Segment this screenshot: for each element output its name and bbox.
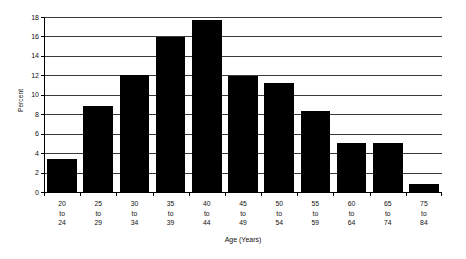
x-axis-tick-label-line: 75 (406, 199, 442, 209)
y-axis-tick-label: 4 (0, 150, 39, 157)
y-axis-tick-mark (41, 134, 45, 135)
bar[interactable] (192, 20, 222, 192)
bar[interactable] (156, 37, 186, 192)
x-axis-tick-label: 45to49 (225, 199, 261, 228)
bar[interactable] (264, 83, 294, 192)
bar-slot (370, 17, 406, 192)
y-axis-tick-label: 2 (0, 169, 39, 176)
x-axis-tick-label-line: 55 (297, 199, 333, 209)
x-axis-tick-label-line: 64 (333, 218, 369, 228)
x-axis-tick-marks (44, 192, 442, 197)
x-axis-tick-label-line: to (261, 209, 297, 219)
bar-chart-figure: Percent 024681012141618 20to2425to2930to… (0, 0, 466, 259)
x-axis-tick-label-line: to (116, 209, 152, 219)
bar[interactable] (373, 143, 403, 192)
bar-slot (44, 17, 80, 192)
x-axis-tick-label-line: to (189, 209, 225, 219)
y-axis-tick-label: 10 (0, 91, 39, 98)
x-axis-tick-mark (225, 192, 226, 196)
y-axis-tick-mark (41, 153, 45, 154)
y-axis-tick-label: 14 (0, 52, 39, 59)
y-axis-tick-mark (41, 75, 45, 76)
x-axis-tick-mark (441, 192, 442, 196)
x-axis-tick-label-line: 35 (153, 199, 189, 209)
bar[interactable] (228, 76, 258, 192)
x-axis-tick-label: 60to64 (333, 199, 369, 228)
x-axis-tick-mark (189, 192, 190, 196)
x-axis-tick-mark (370, 192, 371, 196)
x-axis-tick-label: 40to44 (189, 199, 225, 228)
x-axis-tick-label: 75to84 (406, 199, 442, 228)
y-axis-tick-mark (41, 95, 45, 96)
x-axis-tick-label: 35to39 (153, 199, 189, 228)
x-axis-tick-label-line: 24 (44, 218, 80, 228)
x-axis-tick-mark (116, 192, 117, 196)
x-axis-tick-label-line: 30 (116, 199, 152, 209)
y-axis-tick-label: 16 (0, 33, 39, 40)
x-axis-tick-label-line: 49 (225, 218, 261, 228)
x-axis-tick-label-line: to (370, 209, 406, 219)
bar[interactable] (47, 159, 77, 192)
y-axis-tick-mark (41, 173, 45, 174)
bar[interactable] (409, 184, 439, 192)
x-axis-tick-mark (406, 192, 407, 196)
x-axis-tick-label-line: 39 (153, 218, 189, 228)
y-axis-tick-label: 12 (0, 72, 39, 79)
x-axis-tick-label-line: to (333, 209, 369, 219)
x-axis-tick-label-line: 54 (261, 218, 297, 228)
x-axis-tick-label: 25to29 (80, 199, 116, 228)
x-axis-tick-mark (153, 192, 154, 196)
y-axis-tick-mark (41, 114, 45, 115)
y-axis-tick-label: 8 (0, 111, 39, 118)
x-axis-tick-label: 20to24 (44, 199, 80, 228)
x-axis-tick-label-line: 20 (44, 199, 80, 209)
x-axis-tick-label-line: 25 (80, 199, 116, 209)
x-axis-tick-label: 50to54 (261, 199, 297, 228)
x-axis-tick-label-line: 59 (297, 218, 333, 228)
bar[interactable] (83, 106, 113, 192)
y-axis-tick-mark (41, 192, 45, 193)
x-axis-tick-label: 65to74 (370, 199, 406, 228)
y-axis-tick-labels: 024681012141618 (0, 17, 40, 192)
bar-slot (406, 17, 442, 192)
x-axis-tick-mark (333, 192, 334, 196)
x-axis-tick-label-line: 60 (333, 199, 369, 209)
x-axis-tick-label-line: to (44, 209, 80, 219)
y-axis-tick-mark (41, 17, 45, 18)
x-axis-tick-label-line: to (225, 209, 261, 219)
bar-slot (189, 17, 225, 192)
bar-slot (333, 17, 369, 192)
bar-slot (297, 17, 333, 192)
x-axis-tick-mark (297, 192, 298, 196)
x-axis-tick-label-line: 50 (261, 199, 297, 209)
x-axis-tick-label-line: 45 (225, 199, 261, 209)
bar[interactable] (301, 111, 331, 192)
x-axis-tick-label: 55to59 (297, 199, 333, 228)
x-axis-tick-label-line: to (153, 209, 189, 219)
y-axis-tick-mark (41, 36, 45, 37)
x-axis-tick-labels: 20to2425to2930to3435to3940to4445to4950to… (44, 199, 442, 235)
x-axis-tick-label-line: 74 (370, 218, 406, 228)
x-axis-tick-label-line: 40 (189, 199, 225, 209)
x-axis-title: Age (Years) (44, 236, 442, 243)
bar-slot (80, 17, 116, 192)
bar-slot (116, 17, 152, 192)
bar[interactable] (120, 75, 150, 192)
y-axis-tick-label: 18 (0, 14, 39, 21)
y-axis-tick-label: 6 (0, 130, 39, 137)
bar-slot (225, 17, 261, 192)
y-axis-tick-label: 0 (0, 189, 39, 196)
x-axis-tick-mark (261, 192, 262, 196)
bar[interactable] (337, 143, 367, 192)
x-axis-tick-label-line: 65 (370, 199, 406, 209)
x-axis-tick-label-line: 44 (189, 218, 225, 228)
bars-layer (44, 17, 442, 192)
y-axis-tick-mark (41, 56, 45, 57)
x-axis-tick-label-line: 29 (80, 218, 116, 228)
bar-slot (153, 17, 189, 192)
x-axis-tick-label: 30to34 (116, 199, 152, 228)
x-axis-tick-label-line: to (297, 209, 333, 219)
bar-slot (261, 17, 297, 192)
x-axis-tick-label-line: 34 (116, 218, 152, 228)
x-axis-tick-mark (80, 192, 81, 196)
